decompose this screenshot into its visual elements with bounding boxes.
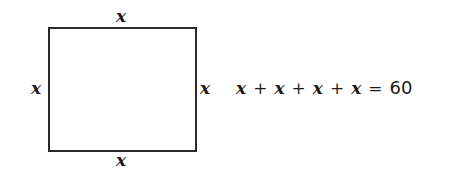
side-label-left: x bbox=[31, 80, 41, 97]
equation-term: x bbox=[274, 78, 284, 98]
equation-term: x bbox=[236, 78, 246, 98]
side-label-right: x bbox=[200, 80, 210, 97]
equation-term: x bbox=[351, 78, 361, 98]
side-label-bottom: x bbox=[116, 152, 126, 169]
plus-sign: + bbox=[253, 78, 267, 98]
equals-sign: = bbox=[368, 78, 382, 98]
equation-result: 60 bbox=[390, 77, 413, 98]
plus-sign: + bbox=[330, 78, 344, 98]
side-label-top: x bbox=[116, 8, 126, 25]
perimeter-equation: x+x+x+x=60 bbox=[236, 79, 412, 97]
plus-sign: + bbox=[292, 78, 306, 98]
square-shape bbox=[48, 27, 197, 152]
equation-term: x bbox=[313, 78, 323, 98]
